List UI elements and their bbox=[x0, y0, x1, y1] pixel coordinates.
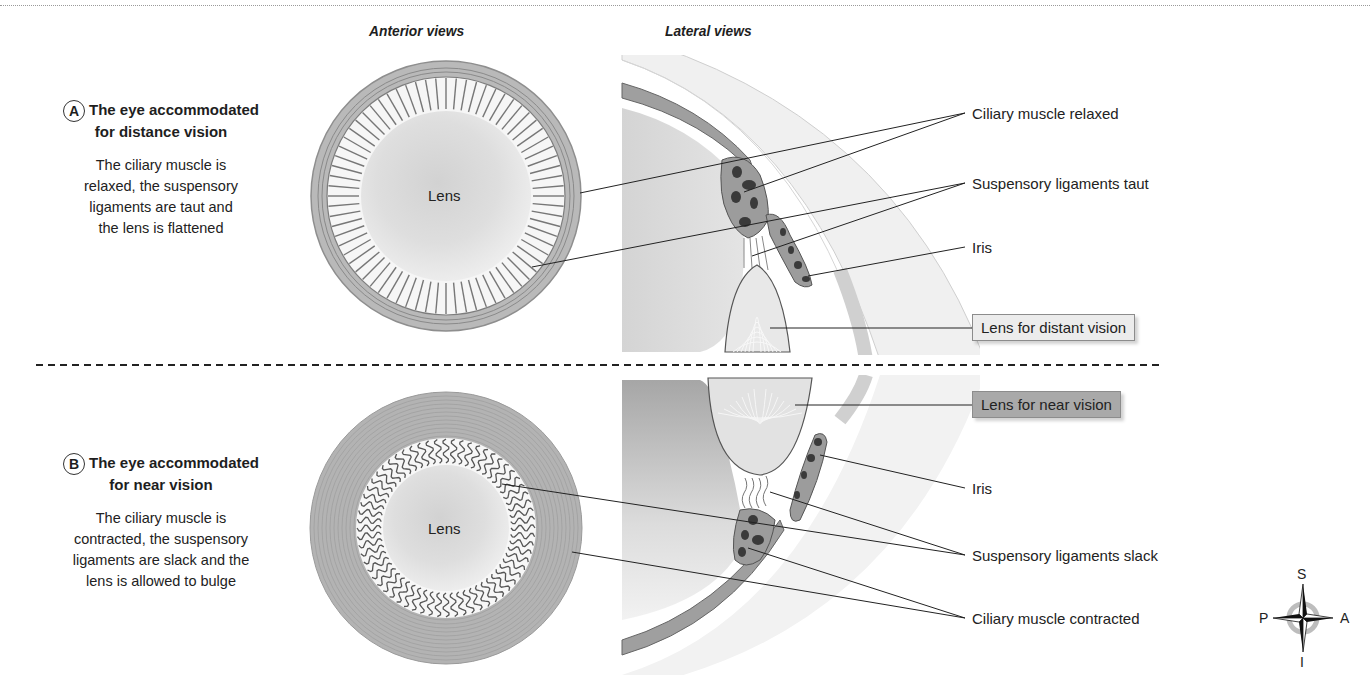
lens-label-b: Lens bbox=[428, 520, 461, 537]
compass-inferior: I bbox=[1300, 654, 1304, 670]
lateral-view-near bbox=[622, 375, 985, 690]
label-lens-for-distant-vision: Lens for distant vision bbox=[972, 314, 1135, 341]
label-iris-a: Iris bbox=[972, 239, 992, 256]
compass-posterior: P bbox=[1259, 610, 1268, 626]
label-suspensory-ligaments-slack: Suspensory ligaments slack bbox=[972, 547, 1158, 564]
label-iris-b: Iris bbox=[972, 480, 992, 497]
lateral-view-distance bbox=[622, 35, 985, 360]
compass-anterior: A bbox=[1340, 610, 1349, 626]
lens-label-a: Lens bbox=[428, 187, 461, 204]
label-suspensory-ligaments-taut: Suspensory ligaments taut bbox=[972, 175, 1149, 192]
orientation-compass bbox=[1273, 584, 1333, 652]
label-lens-for-near-vision: Lens for near vision bbox=[972, 391, 1121, 418]
label-ciliary-muscle-contracted: Ciliary muscle contracted bbox=[972, 610, 1140, 627]
compass-superior: S bbox=[1297, 566, 1306, 582]
label-ciliary-muscle-relaxed: Ciliary muscle relaxed bbox=[972, 105, 1119, 122]
eye-accommodation-illustration bbox=[0, 0, 1370, 694]
